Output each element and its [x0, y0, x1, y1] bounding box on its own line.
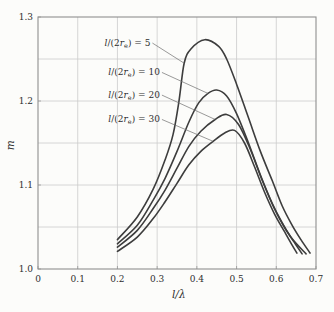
chart-figure: 00.10.20.30.40.50.60.71.01.11.21.3l/(2re… [0, 0, 334, 312]
y-tick-label: 1.2 [19, 96, 33, 106]
x-tick-label: 0.7 [309, 274, 324, 284]
x-axis-label: l/λ [172, 289, 186, 300]
x-tick-label: 0.3 [150, 274, 165, 284]
x-tick-label: 0.5 [229, 274, 244, 284]
x-tick-label: 0.2 [110, 274, 124, 284]
y-tick-label: 1.3 [19, 12, 34, 22]
y-tick-label: 1.0 [19, 264, 34, 274]
y-axis-label: m [5, 140, 16, 150]
chart-canvas: 00.10.20.30.40.50.60.71.01.11.21.3l/(2re… [0, 0, 334, 312]
y-tick-label: 1.1 [19, 180, 33, 190]
x-tick-label: 0.4 [190, 274, 205, 284]
x-tick-label: 0.1 [71, 274, 85, 284]
x-tick-label: 0.6 [269, 274, 284, 284]
x-tick-label: 0 [35, 274, 41, 284]
